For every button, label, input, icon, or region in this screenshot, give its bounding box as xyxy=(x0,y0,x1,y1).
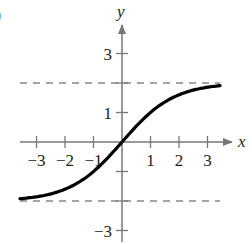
chart: −3−2−112313−3 x y xyxy=(0,0,252,244)
x-tick-label: 3 xyxy=(203,151,212,170)
x-tick-label: 1 xyxy=(146,151,155,170)
y-axis-label: y xyxy=(115,2,125,21)
x-axis-label: x xyxy=(237,132,246,151)
x-tick-label: 2 xyxy=(175,151,184,170)
x-tick-label: −2 xyxy=(56,151,74,170)
y-tick-label: −3 xyxy=(94,222,112,241)
y-tick-label: 1 xyxy=(104,104,113,123)
x-tick-label: −3 xyxy=(27,151,45,170)
y-tick-label: 3 xyxy=(104,45,113,64)
axes xyxy=(20,25,232,242)
